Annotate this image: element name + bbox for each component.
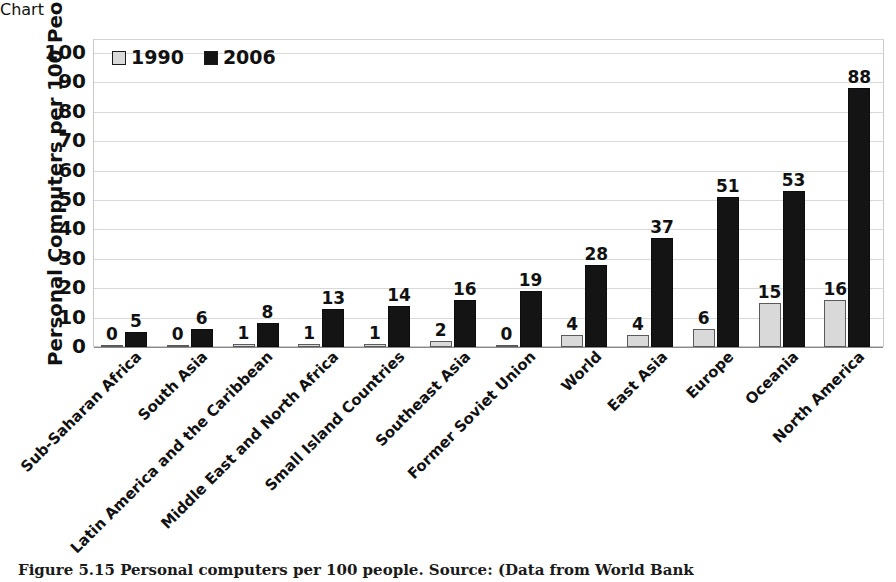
bar-2006[interactable]: 5 [125, 332, 147, 347]
bar-value-label: 4 [566, 316, 578, 333]
bar-1990[interactable]: 15 [759, 303, 781, 347]
bar-1990[interactable]: 6 [693, 329, 715, 347]
bar-value-label: 6 [698, 310, 710, 327]
bar-group: 019 [489, 53, 555, 347]
bar-value-label: 37 [650, 219, 674, 236]
y-tick-30: 30 [28, 248, 86, 268]
y-tick-40: 40 [28, 218, 86, 238]
bar-value-label: 1 [369, 325, 381, 342]
bars-layer: 05061811311421601942843765115531688 [94, 53, 883, 347]
bar-group: 216 [423, 53, 489, 347]
bar-group: 113 [291, 53, 357, 347]
bar-value-label: 19 [519, 272, 543, 289]
bar-group: 1553 [752, 53, 818, 347]
bar-1990[interactable]: 16 [824, 300, 846, 347]
bar-2006[interactable]: 51 [717, 197, 739, 347]
bar-value-label: 88 [847, 69, 871, 86]
bar-value-label: 53 [782, 172, 806, 189]
bar-value-label: 8 [262, 304, 274, 321]
bar-2006[interactable]: 16 [454, 300, 476, 347]
bar-1990[interactable]: 0 [496, 345, 518, 347]
bar-2006[interactable]: 37 [651, 238, 673, 347]
bar-group: 05 [94, 53, 160, 347]
y-tick-50: 50 [28, 189, 86, 209]
legend-swatch-icon-2006 [204, 51, 218, 65]
legend-swatch-icon-1990 [112, 51, 126, 65]
legend-entry-1990[interactable]: 1990 [112, 48, 184, 67]
bar-2006[interactable]: 28 [585, 265, 607, 347]
y-tick-80: 80 [28, 101, 86, 121]
bar-value-label: 28 [584, 246, 608, 263]
bar-1990[interactable]: 0 [167, 345, 189, 347]
bar-value-label: 16 [453, 281, 477, 298]
x-axis-category-labels: Sub-Saharan AfricaSouth AsiaLatin Americ… [0, 349, 896, 499]
bar-value-label: 13 [321, 290, 345, 307]
bar-group: 18 [226, 53, 292, 347]
bar-group: 437 [620, 53, 686, 347]
bar-1990[interactable]: 4 [561, 335, 583, 347]
y-tick-10: 10 [28, 307, 86, 327]
bar-group: 651 [686, 53, 752, 347]
chart-legend: 19902006 [112, 48, 276, 67]
bar-value-label: 15 [758, 284, 782, 301]
bar-2006[interactable]: 13 [322, 309, 344, 347]
figure-container: Personal Computers per 100 People 100908… [0, 19, 896, 579]
bar-2006[interactable]: 6 [191, 329, 213, 347]
bar-value-label: 0 [501, 326, 513, 343]
bar-2006[interactable]: 88 [848, 88, 870, 347]
bar-value-label: 0 [172, 326, 184, 343]
bar-value-label: 16 [823, 281, 847, 298]
bar-group: 114 [357, 53, 423, 347]
y-tick-70: 70 [28, 130, 86, 150]
bar-value-label: 51 [716, 178, 740, 195]
bar-value-label: 0 [106, 326, 118, 343]
bar-1990[interactable]: 2 [430, 341, 452, 347]
bar-1990[interactable]: 0 [101, 345, 123, 347]
bar-value-label: 1 [303, 325, 315, 342]
y-tick-60: 60 [28, 160, 86, 180]
bar-2006[interactable]: 8 [257, 323, 279, 347]
bar-group: 428 [554, 53, 620, 347]
bar-2006[interactable]: 53 [783, 191, 805, 347]
bar-value-label: 1 [238, 325, 250, 342]
y-tick-20: 20 [28, 277, 86, 297]
bar-1990[interactable]: 1 [298, 344, 320, 347]
bar-2006[interactable]: 14 [388, 306, 410, 347]
bar-group: 06 [160, 53, 226, 347]
legend-entry-2006[interactable]: 2006 [204, 48, 276, 67]
y-tick-90: 90 [28, 71, 86, 91]
bar-1990[interactable]: 1 [233, 344, 255, 347]
bar-value-label: 2 [435, 322, 447, 339]
y-tick-100: 100 [28, 42, 86, 62]
plot-area: 19902006 0506181131142160194284376511553… [93, 39, 884, 347]
bar-1990[interactable]: 1 [364, 344, 386, 347]
bar-value-label: 14 [387, 287, 411, 304]
legend-label: 2006 [223, 48, 276, 67]
figure-caption: Figure 5.15 Personal computers per 100 p… [18, 562, 884, 579]
bar-value-label: 5 [130, 313, 142, 330]
bar-1990[interactable]: 4 [627, 335, 649, 347]
bar-2006[interactable]: 19 [520, 291, 542, 347]
legend-label: 1990 [131, 48, 184, 67]
bar-value-label: 4 [632, 316, 644, 333]
gridline-0 [94, 347, 883, 348]
bar-value-label: 6 [196, 310, 208, 327]
bar-group: 1688 [817, 53, 883, 347]
y-axis-tick-labels: 1009080706050403020100 [28, 52, 86, 346]
